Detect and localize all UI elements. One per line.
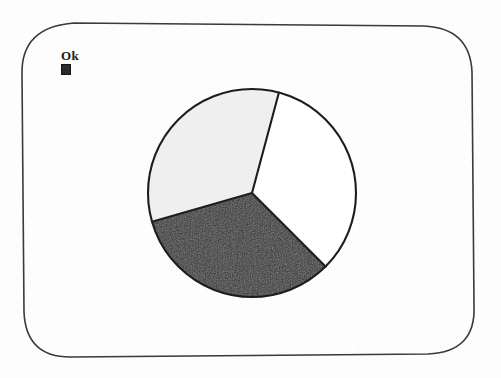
crt-screen: Ok — [0, 0, 501, 378]
ok-label: Ok — [61, 49, 95, 62]
filled-square-cursor-icon[interactable] — [61, 64, 71, 75]
pie-chart — [142, 83, 362, 303]
ok-prompt-group[interactable]: Ok — [61, 49, 95, 75]
